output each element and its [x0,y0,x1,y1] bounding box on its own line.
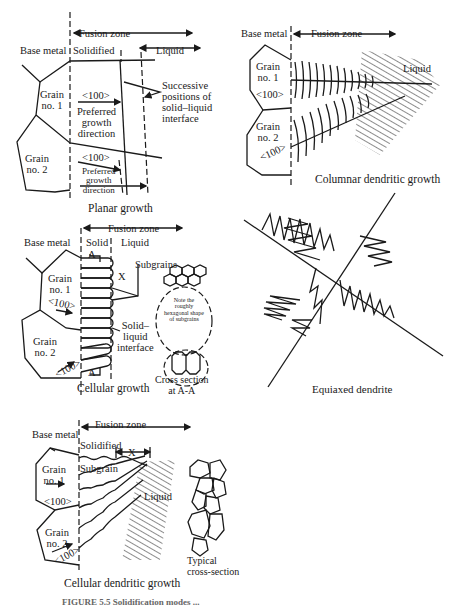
celldend-solidified-label: Solidified [80,440,121,451]
celldend-fusion-zone-label: Fusion zone [95,419,146,430]
cellular-interface-label: Solid– liquid interface [117,320,154,353]
columnar-grain2-label: Grain no. 2 [256,121,280,143]
planar-preferred2-label: Preferred growth direction [82,167,115,195]
columnar-base-metal-label: Base metal [241,28,287,39]
cellular-liquid-label: Liquid [121,237,149,248]
planar-fusion-zone-label: Fusion zone [79,28,130,39]
cellular-hexagonal-note: Note the roughly hexagonal shape of subg… [160,297,208,322]
celldend-growth-title: Cellular dendritic growth [64,577,180,589]
planar-preferred1-label: Preferred growth direction [77,106,116,139]
celldend-base-metal-label: Base metal [32,429,78,440]
columnar-fusion-zone-label: Fusion zone [311,28,362,39]
cellular-growth-title: Cellular growth [77,382,150,394]
cellular-fusion-zone-label: Fusion zone [108,223,159,234]
planar-base-metal-label: Base metal [20,45,66,56]
cellular-base-metal-label: Base metal [24,237,70,248]
cellular-grain1-label: Grain no. 1 [48,273,72,295]
cellular-solid-label: Solid [86,237,108,248]
figure-caption: FIGURE 5.5 Solidification modes ... [62,598,200,607]
columnar-grain1-label: Grain no. 1 [256,61,280,83]
columnar-dir1-label: <100> [256,89,284,100]
columnar-liquid-label: Liquid [403,63,431,74]
cellular-subgrains-label: Subgrains [135,259,177,270]
celldend-subgrain-label: Subgrain [80,463,118,474]
equiaxed-dendrite-panel [244,193,443,387]
celldend-grain2-label: Grain no. 2 [45,527,69,549]
celldend-dir1-label: <100> [44,496,72,507]
celldend-x-label: X [128,447,136,458]
celldend-typical-label: Typical cross-section [187,556,239,577]
celldend-liquid-label: Liquid [144,491,172,502]
planar-liquid-label: Liquid [156,45,184,56]
cellular-x-label: X [118,271,126,282]
equiaxed-dendrite-title: Equiaxed dendrite [312,384,392,396]
cellular-section-a-bottom: A [88,367,96,378]
columnar-dendritic-panel [247,26,440,185]
planar-growth-title: Planar growth [88,202,153,214]
planar-solidified-label: Solidified [73,45,114,56]
planar-dir2-label: <100> [82,152,110,163]
planar-grain2-label: Grain no. 2 [25,153,49,175]
cellular-section-a-top: A [88,249,96,260]
planar-grain1-label: Grain no. 1 [40,89,64,111]
planar-interface-note: Successive positions of solid–liquid int… [162,80,212,124]
cellular-grain2-label: Grain no. 2 [33,336,57,358]
cellular-cross-section-label: Cross section at A-A [155,375,209,396]
celldend-grain1-label: Grain no. 1 [42,464,66,486]
planar-dir1-label: <100> [82,90,110,101]
columnar-growth-title: Columnar dendritic growth [315,173,440,185]
